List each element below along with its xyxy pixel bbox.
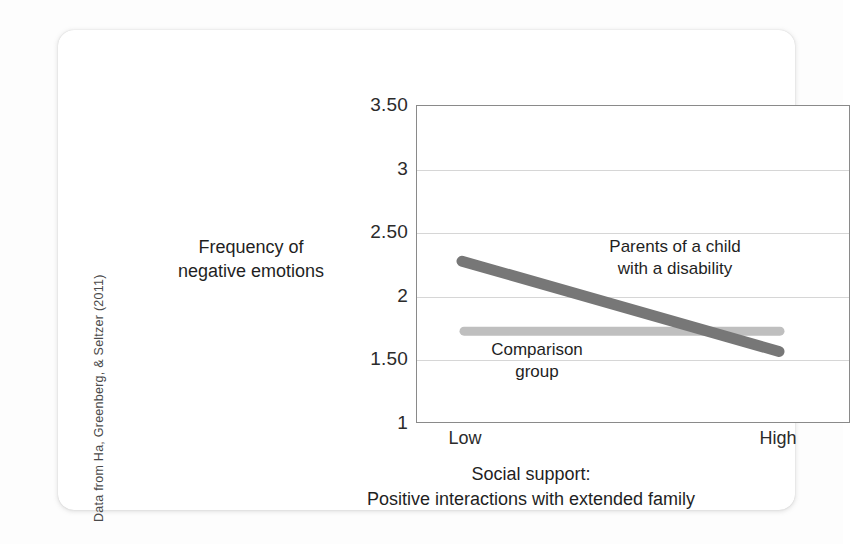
x-axis-title: Social support: Positive interactions wi… [211, 462, 851, 512]
annotation-treatment-line1: Parents of a child [565, 236, 785, 258]
y-axis-tick-labels: 3.50 3 2.50 2 1.50 1 [330, 105, 408, 423]
plot-area: Parents of a child with a disability Com… [416, 105, 850, 423]
annotation-comparison-line2: group [437, 361, 637, 383]
x-tick-label-low: Low [410, 428, 520, 449]
x-tick-label-high: High [723, 428, 833, 449]
y-axis-title: Frequency of negative emotions [176, 235, 326, 284]
x-axis-title-line1: Social support: [211, 462, 851, 487]
source-credit: Data from Ha, Greenberg, & Seltzer (2011… [92, 222, 106, 522]
y-tick-label-350: 3.50 [338, 94, 408, 116]
annotation-treatment-line2: with a disability [565, 258, 785, 280]
y-tick-label-3: 3 [338, 158, 408, 180]
y-tick-label-1: 1 [338, 412, 408, 434]
figure-card: Data from Ha, Greenberg, & Seltzer (2011… [58, 30, 795, 510]
x-axis-title-line2: Positive interactions with extended fami… [211, 487, 851, 512]
annotation-comparison-line1: Comparison [437, 339, 637, 361]
y-axis-title-line1: Frequency of [176, 235, 326, 259]
annotation-comparison-group: Comparison group [437, 339, 637, 383]
y-tick-label-2: 2 [338, 285, 408, 307]
y-tick-label-250: 2.50 [338, 221, 408, 243]
y-tick-label-150: 1.50 [338, 348, 408, 370]
y-axis-title-line2: negative emotions [176, 259, 326, 283]
annotation-parents-of-a-child-with-a-disability: Parents of a child with a disability [565, 236, 785, 280]
